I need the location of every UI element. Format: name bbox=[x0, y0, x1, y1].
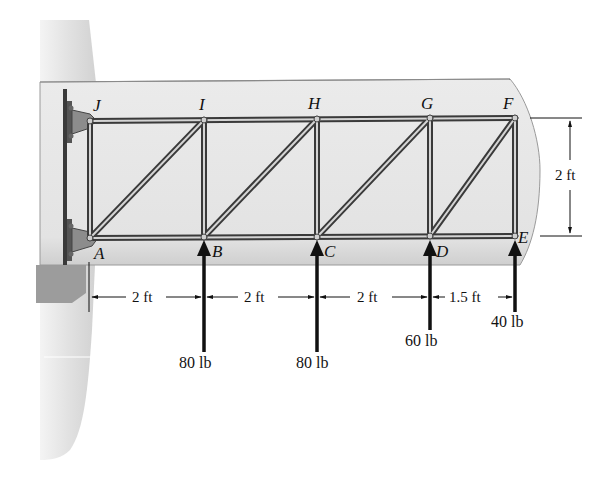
load-label-b: 80 lb bbox=[179, 354, 211, 371]
truss-diagram: J I H G F A B C D E 2 ft 2 ft 2 ft 2 ft … bbox=[0, 0, 611, 482]
joint-label-d: D bbox=[435, 242, 449, 261]
dimension-cd-label: 2 ft bbox=[357, 289, 378, 305]
joint-label-f: F bbox=[502, 94, 514, 113]
wing-root-shadow bbox=[36, 265, 86, 303]
height-dimension-label: 2 ft bbox=[555, 167, 576, 183]
joint-label-a: A bbox=[93, 244, 105, 263]
joint-label-h: H bbox=[307, 94, 322, 113]
joint-label-g: G bbox=[421, 94, 433, 113]
dimension-ab-label: 2 ft bbox=[132, 289, 153, 305]
fuselage-upper bbox=[40, 20, 96, 83]
dimension-bc-label: 2 ft bbox=[244, 289, 265, 305]
load-label-d: 60 lb bbox=[405, 332, 437, 349]
joint-label-e: E bbox=[517, 228, 529, 247]
joint-label-b: B bbox=[212, 242, 223, 261]
support-wall bbox=[63, 89, 67, 265]
load-label-e: 40 lb bbox=[491, 313, 523, 330]
load-label-c: 80 lb bbox=[296, 354, 328, 371]
load-arrow-d bbox=[423, 240, 437, 330]
dimension-de-label: 1.5 ft bbox=[449, 289, 481, 305]
joint-label-c: C bbox=[324, 242, 336, 261]
